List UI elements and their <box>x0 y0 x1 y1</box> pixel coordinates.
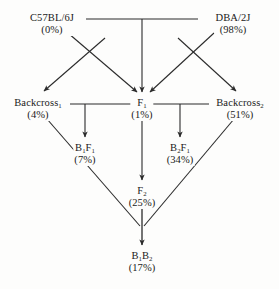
node-backcross2-subscript: 2 <box>260 102 263 109</box>
edge-backcross2-to-junction <box>144 119 234 226</box>
node-b1b2-b2-subscript: 2 <box>149 255 152 262</box>
node-c57bl6j-label: C57BL/6J <box>29 12 75 24</box>
node-b1b2-b1: B <box>131 250 138 261</box>
node-backcross2: Backcross2 (51%) <box>215 97 264 121</box>
node-backcross2-name: Backcross <box>216 97 260 108</box>
node-b2f1-b: B <box>170 142 177 153</box>
node-b1f1: B1F1 (7%) <box>73 142 96 166</box>
node-b1f1-b-subscript: 1 <box>82 147 85 154</box>
node-backcross2-percent: (51%) <box>215 109 264 121</box>
node-b2f1-label: B2F1 <box>166 142 195 154</box>
edge-backcross1-to-junction <box>47 119 140 226</box>
node-backcross1-label: Backcross1 <box>13 97 62 109</box>
edge-cross-to-backcross1 <box>44 38 105 91</box>
node-dba2j-label: DBA/2J <box>214 12 251 24</box>
node-b2f1: B2F1 (34%) <box>166 142 195 166</box>
node-c57bl6j-percent: (0%) <box>29 24 75 36</box>
node-f2-percent: (25%) <box>128 197 157 209</box>
node-b2f1-b-subscript: 2 <box>177 147 180 154</box>
edge-c57-to-f1-cross <box>68 33 137 92</box>
node-c57bl6j: C57BL/6J (0%) <box>29 12 75 36</box>
node-b1b2-percent: (17%) <box>128 262 157 274</box>
node-b2f1-f: F <box>181 142 187 153</box>
node-backcross1-percent: (4%) <box>13 109 62 121</box>
node-f1: F1 (1%) <box>130 97 153 121</box>
node-b1b2: B1B2 (17%) <box>128 250 157 274</box>
node-b1f1-label: B1F1 <box>73 142 96 154</box>
node-b1f1-f-subscript: 1 <box>92 147 95 154</box>
node-f1-percent: (1%) <box>130 109 153 121</box>
node-f1-label: F1 <box>130 97 153 109</box>
edge-cross-to-backcross2 <box>178 38 236 91</box>
node-b2f1-f-subscript: 1 <box>187 147 190 154</box>
node-b1b2-label: B1B2 <box>128 250 157 262</box>
node-backcross2-label: Backcross2 <box>215 97 264 109</box>
node-b1f1-b: B <box>75 142 82 153</box>
node-f2-label: F2 <box>128 185 157 197</box>
node-b1f1-percent: (7%) <box>73 154 96 166</box>
node-backcross1-name: Backcross <box>14 97 58 108</box>
node-b1b2-b1-subscript: 1 <box>139 255 142 262</box>
node-backcross1-subscript: 1 <box>58 102 61 109</box>
node-dba2j: DBA/2J (98%) <box>214 12 251 36</box>
breeding-scheme-diagram: C57BL/6J (0%) DBA/2J (98%) Backcross1 (4… <box>0 0 279 289</box>
node-b2f1-percent: (34%) <box>166 154 195 166</box>
diagram-edges <box>0 0 279 289</box>
node-f2-name: F <box>137 185 143 196</box>
node-backcross1: Backcross1 (4%) <box>13 97 62 121</box>
node-f1-subscript: 1 <box>143 102 146 109</box>
node-f2-subscript: 2 <box>143 190 146 197</box>
node-f2: F2 (25%) <box>128 185 157 209</box>
node-dba2j-percent: (98%) <box>214 24 251 36</box>
